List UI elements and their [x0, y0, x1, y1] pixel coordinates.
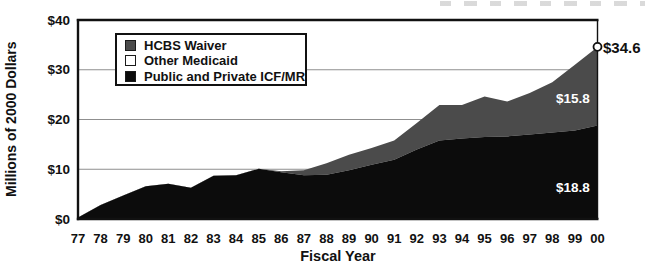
x-axis-title: Fiscal Year — [78, 248, 598, 264]
icfmr-value-label: $18.8 — [547, 180, 599, 195]
x-tick-label-91: 91 — [387, 231, 401, 246]
x-tick-label-92: 92 — [410, 231, 424, 246]
hcbs-waiver-swatch-icon — [125, 40, 136, 51]
x-tick-label-77: 77 — [71, 231, 85, 246]
x-tick-label-88: 88 — [319, 231, 333, 246]
hcbs-value-label: $15.8 — [547, 91, 599, 106]
legend-label-hcbs-waiver: HCBS Waiver — [144, 38, 227, 53]
legend-label-other-medicaid: Other Medicaid — [144, 53, 238, 68]
x-tick-label-93: 93 — [432, 231, 446, 246]
x-tick-label-85: 85 — [251, 231, 265, 246]
y-tick-label-30: $30 — [47, 62, 70, 77]
icfmr-swatch-icon — [125, 71, 136, 82]
y-axis-title: Millions of 2000 Dollars — [2, 20, 20, 219]
y-tick-label-40: $40 — [47, 13, 70, 28]
y-tick-label-20: $20 — [47, 112, 70, 127]
y-tick-label-10: $10 — [47, 162, 70, 177]
y-tick-label-0: $0 — [55, 212, 70, 227]
legend-item-other-medicaid: Other Medicaid — [125, 53, 305, 68]
other-medicaid-swatch-icon — [125, 55, 136, 66]
x-tick-label-98: 98 — [545, 231, 559, 246]
x-tick-label-80: 80 — [139, 231, 153, 246]
x-tick-label-95: 95 — [477, 231, 491, 246]
plot-area: $40$30$20$10$077787980818283848586878889… — [0, 0, 652, 269]
x-tick-label-97: 97 — [523, 231, 537, 246]
x-tick-label-86: 86 — [274, 231, 288, 246]
x-tick-label-78: 78 — [93, 231, 107, 246]
spending-area-chart: $40$30$20$10$077787980818283848586878889… — [0, 0, 652, 269]
x-tick-label-96: 96 — [500, 231, 514, 246]
legend-item-icfmr: Public and Private ICF/MR — [125, 69, 305, 84]
x-tick-label-84: 84 — [229, 231, 244, 246]
x-tick-label-82: 82 — [184, 231, 198, 246]
x-tick-label-99: 99 — [568, 231, 582, 246]
x-tick-label-81: 81 — [161, 231, 175, 246]
x-tick-label-94: 94 — [455, 231, 470, 246]
legend: HCBS Waiver Other Medicaid Public and Pr… — [115, 33, 307, 86]
total-value-label: $34.6 — [603, 39, 641, 56]
x-tick-label-89: 89 — [342, 231, 356, 246]
x-tick-label-87: 87 — [297, 231, 311, 246]
legend-label-icfmr: Public and Private ICF/MR — [144, 69, 305, 84]
x-tick-label-83: 83 — [206, 231, 220, 246]
x-tick-label-79: 79 — [116, 231, 130, 246]
x-tick-label-00: 00 — [590, 231, 604, 246]
endpoint-marker — [594, 43, 602, 51]
x-tick-label-90: 90 — [364, 231, 378, 246]
legend-item-hcbs-waiver: HCBS Waiver — [125, 38, 305, 53]
